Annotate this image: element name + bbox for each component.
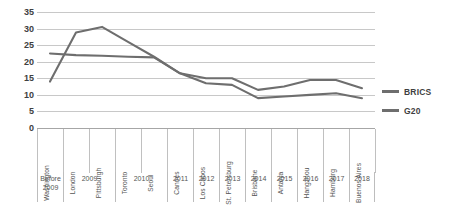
year-group-2012: 2012 — [193, 172, 219, 202]
year-group-text: 2009 — [64, 175, 115, 184]
category-separator — [219, 129, 220, 173]
y-axis-tick-0: 0 — [12, 124, 34, 133]
year-group-2009: 2009 — [63, 172, 115, 202]
legend-swatch-brics — [382, 90, 399, 92]
legend-item-brics[interactable]: BRICS — [382, 82, 450, 101]
year-group-2016: 2016 — [297, 172, 323, 202]
year-group-text: 2009 — [38, 184, 63, 193]
year-group-text: 2014 — [246, 175, 271, 184]
category-separator — [141, 129, 142, 173]
category-separator — [193, 129, 194, 173]
year-group-text: 2013 — [220, 175, 245, 184]
category-separator — [297, 129, 298, 173]
chart-legend: BRICS G20 — [382, 82, 450, 120]
year-group-2014: 2014 — [245, 172, 271, 202]
y-axis-tick-10: 10 — [12, 90, 34, 99]
year-group-2011: 2011 — [167, 172, 193, 202]
category-separator — [37, 129, 38, 173]
category-separator — [375, 129, 376, 173]
year-group-text: 2017 — [324, 175, 349, 184]
category-separator — [167, 129, 168, 173]
y-axis-tick-15: 15 — [12, 74, 34, 83]
category-separator — [349, 129, 350, 173]
year-group-2013: 2013 — [219, 172, 245, 202]
year-group-2015: 2015 — [271, 172, 297, 202]
y-axis-tick-25: 25 — [12, 41, 34, 50]
plot-area — [37, 12, 375, 128]
category-separator — [115, 129, 116, 173]
y-axis-tick-35: 35 — [12, 8, 34, 17]
year-group-2010: 2010 — [115, 172, 167, 202]
series-paths — [37, 12, 375, 128]
year-group-text: Before — [38, 175, 63, 184]
category-separator — [63, 129, 64, 173]
line-chart: 35302520151050 WashingtonLondonPittsburg… — [0, 0, 450, 212]
year-group-text: 2018 — [350, 175, 374, 184]
year-group-text: 2015 — [272, 175, 297, 184]
year-group-2018: 2018 — [349, 172, 375, 202]
year-group-text: 2012 — [194, 175, 219, 184]
series-line-brics — [50, 27, 362, 90]
y-axis-tick-30: 30 — [12, 24, 34, 33]
year-group-before-2009: Before2009 — [37, 172, 63, 202]
legend-item-g20[interactable]: G20 — [382, 101, 450, 120]
year-axis: Before2009200920102011201220132014201520… — [37, 172, 375, 212]
legend-label-g20: G20 — [404, 106, 421, 116]
category-separator — [245, 129, 246, 173]
category-separator — [323, 129, 324, 173]
category-separator — [89, 129, 90, 173]
y-axis: 35302520151050 — [0, 0, 34, 212]
year-group-text: 2011 — [168, 175, 193, 184]
series-line-g20 — [50, 53, 362, 98]
category-separator — [271, 129, 272, 173]
y-axis-tick-20: 20 — [12, 57, 34, 66]
legend-label-brics: BRICS — [404, 87, 431, 97]
year-group-text: 2016 — [298, 175, 323, 184]
legend-swatch-g20 — [382, 109, 399, 111]
y-axis-tick-5: 5 — [12, 107, 34, 116]
year-group-2017: 2017 — [323, 172, 349, 202]
year-group-text: 2010 — [116, 175, 167, 184]
